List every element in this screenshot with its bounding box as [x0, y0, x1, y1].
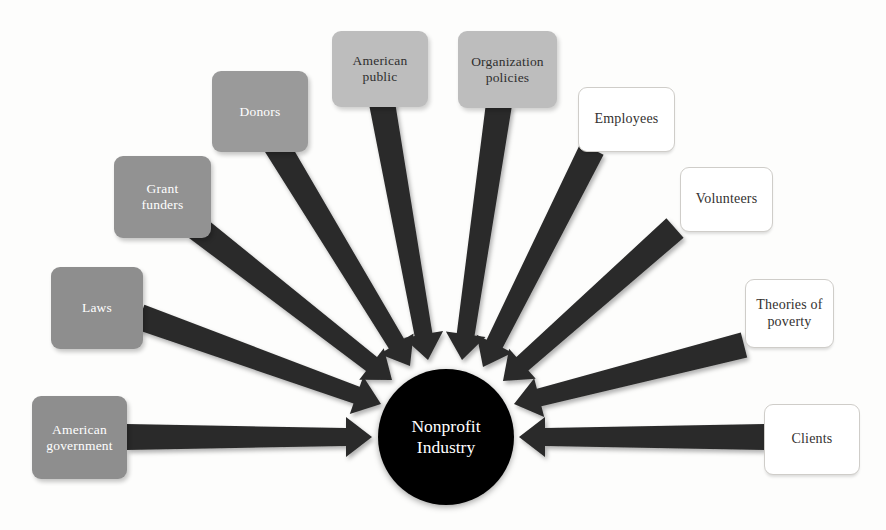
center-node-label: Nonprofit Industry	[411, 416, 480, 457]
node-employees[interactable]: Employees	[578, 87, 675, 152]
node-label: American government	[46, 422, 112, 453]
node-label: American public	[353, 53, 408, 84]
node-label: Theories of poverty	[756, 297, 822, 329]
node-label: Laws	[82, 300, 112, 316]
node-clients[interactable]: Clients	[764, 404, 860, 475]
node-organization-policies[interactable]: Organization policies	[458, 31, 557, 108]
arrow-laws	[136, 305, 381, 414]
node-american-government[interactable]: American government	[32, 396, 127, 479]
node-label: Donors	[240, 104, 281, 120]
node-laws[interactable]: Laws	[51, 267, 143, 349]
node-donors[interactable]: Donors	[212, 71, 308, 152]
node-volunteers[interactable]: Volunteers	[680, 167, 773, 232]
arrow-american-government	[127, 417, 372, 457]
node-label: Organization policies	[471, 54, 544, 85]
center-node-nonprofit-industry[interactable]: Nonprofit Industry	[378, 369, 514, 505]
node-theories-of-poverty[interactable]: Theories of poverty	[745, 279, 834, 348]
node-label: Grant funders	[142, 181, 184, 212]
node-label: Employees	[594, 111, 658, 127]
node-american-public[interactable]: American public	[332, 31, 428, 107]
diagram-canvas: American government Laws Grant funders D…	[0, 0, 886, 530]
node-grant-funders[interactable]: Grant funders	[114, 156, 211, 238]
node-label: Clients	[791, 431, 832, 447]
node-label: Volunteers	[696, 191, 758, 207]
arrow-clients	[519, 417, 764, 457]
